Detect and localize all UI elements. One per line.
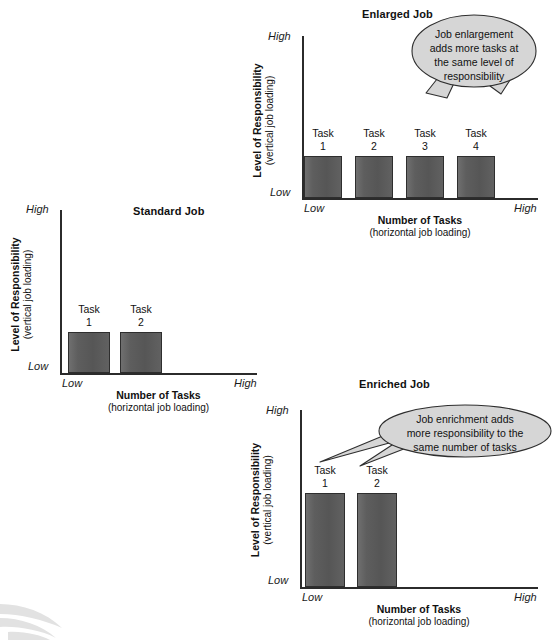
callout-line-4: responsibility [412,70,536,84]
y-axis-title-line1-enriched: Level of Responsibility [250,430,262,570]
bar-standard-task-1 [68,332,110,373]
x-tick-low-standard: Low [62,377,82,389]
y-axis-title-line2-enriched: (vertical job loading) [262,430,273,570]
bar-label-standard-task-2: Task 2 [120,303,162,328]
y-tick-high-enlarged: High [268,30,291,42]
y-axis-title-enlarged: Level of Responsibility (vertical job lo… [252,53,275,188]
callout-enlarged-text: Job enlargement adds more tasks at the s… [412,28,536,84]
bar-label-num: 4 [457,140,495,153]
bar-label-num: 2 [357,477,397,490]
bar-label-num: 1 [304,140,342,153]
y-axis-title-line1-enlarged: Level of Responsibility [252,53,264,188]
callout-line-2: more responsibility to the [380,427,550,441]
callout-line-3: the same level of [412,56,536,70]
bar-enriched-task-2 [357,493,397,587]
callout-line-3: same number of tasks [380,441,550,455]
callout-line-1: Job enrichment adds [380,413,550,427]
bar-enlarged-task-4 [457,156,495,198]
bar-standard-task-2 [120,332,162,373]
x-tick-high-enlarged: High [514,202,537,214]
bar-enlarged-task-3 [406,156,444,198]
y-axis-title-standard: Level of Responsibility (vertical job lo… [10,227,33,362]
y-tick-high-enriched: High [266,404,289,416]
x-axis-title-line2-enlarged: (horizontal job loading) [302,227,538,240]
bar-label-enlarged-task-2: Task 2 [355,127,393,152]
x-axis-title-standard: Number of Tasks (horizontal job loading) [60,389,257,415]
x-axis-title-line1-standard: Number of Tasks [60,389,257,402]
x-axis-title-line2-enriched: (horizontal job loading) [300,616,538,629]
x-tick-low-enriched: Low [302,591,322,603]
bar-enlarged-task-2 [355,156,393,198]
x-axis-title-line1-enlarged: Number of Tasks [302,214,538,227]
callout-line-2: adds more tasks at [412,42,536,56]
y-axis-title-line1-standard: Level of Responsibility [10,227,22,362]
bar-label-num: 2 [120,316,162,329]
bar-label-num: 1 [305,477,345,490]
x-axis-line-enlarged [302,198,538,200]
bar-label-enlarged-task-4: Task 4 [457,127,495,152]
x-tick-high-standard: High [234,377,257,389]
x-tick-low-enlarged: Low [304,202,324,214]
y-axis-line-standard [60,210,62,374]
x-axis-title-line2-standard: (horizontal job loading) [60,402,257,415]
bar-label-text: Task [304,127,342,140]
callout-enriched-text: Job enrichment adds more responsibility … [380,413,550,455]
panel-title-standard: Standard Job [133,205,205,217]
callout-enlarged: Job enlargement adds more tasks at the s… [398,14,553,129]
bar-enriched-task-1 [305,493,345,587]
bar-label-enlarged-task-3: Task 3 [406,127,444,152]
bar-label-num: 2 [355,140,393,153]
y-axis-line-enriched [300,410,302,588]
corner-swoosh-watermark [0,598,120,640]
y-axis-title-line2-standard: (vertical job loading) [22,227,33,362]
y-tick-low-enriched: Low [268,574,288,586]
x-axis-line-standard [60,373,257,375]
x-axis-title-enriched: Number of Tasks (horizontal job loading) [300,603,538,629]
panel-title-enriched: Enriched Job [359,378,430,390]
x-axis-title-line1-enriched: Number of Tasks [300,603,538,616]
bar-label-num: 1 [68,316,110,329]
y-axis-title-line2-enlarged: (vertical job loading) [264,53,275,188]
callout-line-1: Job enlargement [412,28,536,42]
bar-label-num: 3 [406,140,444,153]
y-tick-high-standard: High [26,203,49,215]
x-axis-line-enriched [300,587,538,589]
bar-label-enlarged-task-1: Task 1 [304,127,342,152]
bar-label-standard-task-1: Task 1 [68,303,110,328]
bar-label-text: Task [355,127,393,140]
y-axis-title-enriched: Level of Responsibility (vertical job lo… [250,430,273,570]
bar-label-text: Task [120,303,162,316]
swoosh-icon [0,598,120,640]
bar-enlarged-task-1 [304,156,342,198]
callout-enriched: Job enrichment adds more responsibility … [318,404,553,474]
bar-label-text: Task [68,303,110,316]
x-tick-high-enriched: High [514,591,537,603]
x-axis-title-enlarged: Number of Tasks (horizontal job loading) [302,214,538,240]
